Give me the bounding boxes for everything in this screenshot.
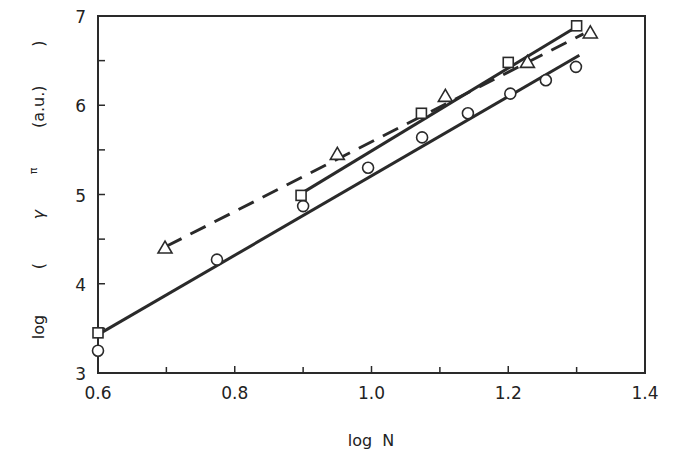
square-marker bbox=[416, 108, 426, 118]
square-marker bbox=[503, 57, 513, 67]
y-tick-label: 6 bbox=[75, 96, 86, 116]
y-axis-title-open: ( bbox=[29, 263, 48, 269]
square-marker bbox=[296, 190, 306, 200]
y-axis-title-unit: (a.u.) bbox=[29, 85, 48, 128]
circle-marker bbox=[540, 75, 551, 86]
x-tick-label: 1.0 bbox=[358, 383, 385, 403]
triangle-marker bbox=[583, 26, 597, 38]
y-axis-title-superscript: π bbox=[27, 167, 40, 174]
y-axis-title: log ( γ π (a.u.) ) bbox=[22, 15, 48, 375]
circle-marker bbox=[93, 345, 104, 356]
circle-marker bbox=[363, 162, 374, 173]
y-tick-label: 4 bbox=[75, 275, 86, 295]
circle-marker bbox=[462, 108, 473, 119]
circle-marker bbox=[298, 201, 309, 212]
y-tick-label: 7 bbox=[75, 7, 86, 27]
y-axis-title-close: ) bbox=[29, 41, 48, 47]
triangle-marker bbox=[330, 147, 344, 159]
x-tick-label: 1.4 bbox=[631, 383, 658, 403]
x-axis-title: log N bbox=[348, 431, 395, 450]
circle-marker bbox=[417, 132, 428, 143]
y-axis-title-symbol: γ bbox=[29, 208, 48, 219]
plot-border bbox=[98, 16, 645, 373]
y-axis-title-prefix: log bbox=[29, 315, 48, 339]
circle-marker bbox=[570, 61, 581, 72]
square-marker bbox=[93, 328, 103, 338]
circle-marker bbox=[505, 88, 516, 99]
x-tick-label: 0.6 bbox=[84, 383, 111, 403]
chart: 0.60.81.01.21.434567 log N log ( γ π (a.… bbox=[0, 0, 684, 461]
y-tick-label: 5 bbox=[75, 186, 86, 206]
data-markers bbox=[93, 21, 598, 356]
triangle-marker bbox=[438, 89, 452, 101]
svg-text:log ( γ π: log ( γ π (a.u.) ) bbox=[22, 15, 48, 375]
square-marker bbox=[572, 21, 582, 31]
y-tick-label: 3 bbox=[75, 364, 86, 384]
plot-frame bbox=[98, 16, 645, 373]
x-tick-label: 0.8 bbox=[221, 383, 248, 403]
x-tick-label: 1.2 bbox=[495, 383, 522, 403]
fit-lines bbox=[98, 27, 583, 335]
circle-marker bbox=[211, 254, 222, 265]
squares-fit-line bbox=[301, 27, 577, 194]
